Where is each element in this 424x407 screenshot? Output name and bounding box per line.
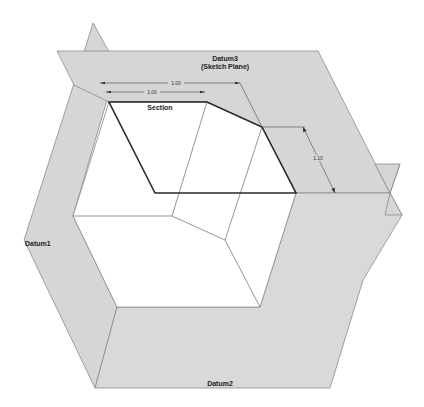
datum-planes-diagram: 1.00 1.00 1.10 Datum3 (Sketch Plane) Sec… [0,0,424,407]
datum3-label-line2: (Sketch Plane) [201,63,249,71]
section-label: Section [147,104,172,111]
cube-cavity [73,102,296,307]
datum3-label-line1: Datum3 [212,55,238,62]
dimension-top-inner-label: 1.00 [147,89,157,95]
datum2-label: Datum2 [207,380,233,387]
dimension-top-outer-label: 1.00 [171,80,181,86]
datum1-label: Datum1 [25,240,51,247]
dimension-right-label: 1.10 [313,155,323,161]
